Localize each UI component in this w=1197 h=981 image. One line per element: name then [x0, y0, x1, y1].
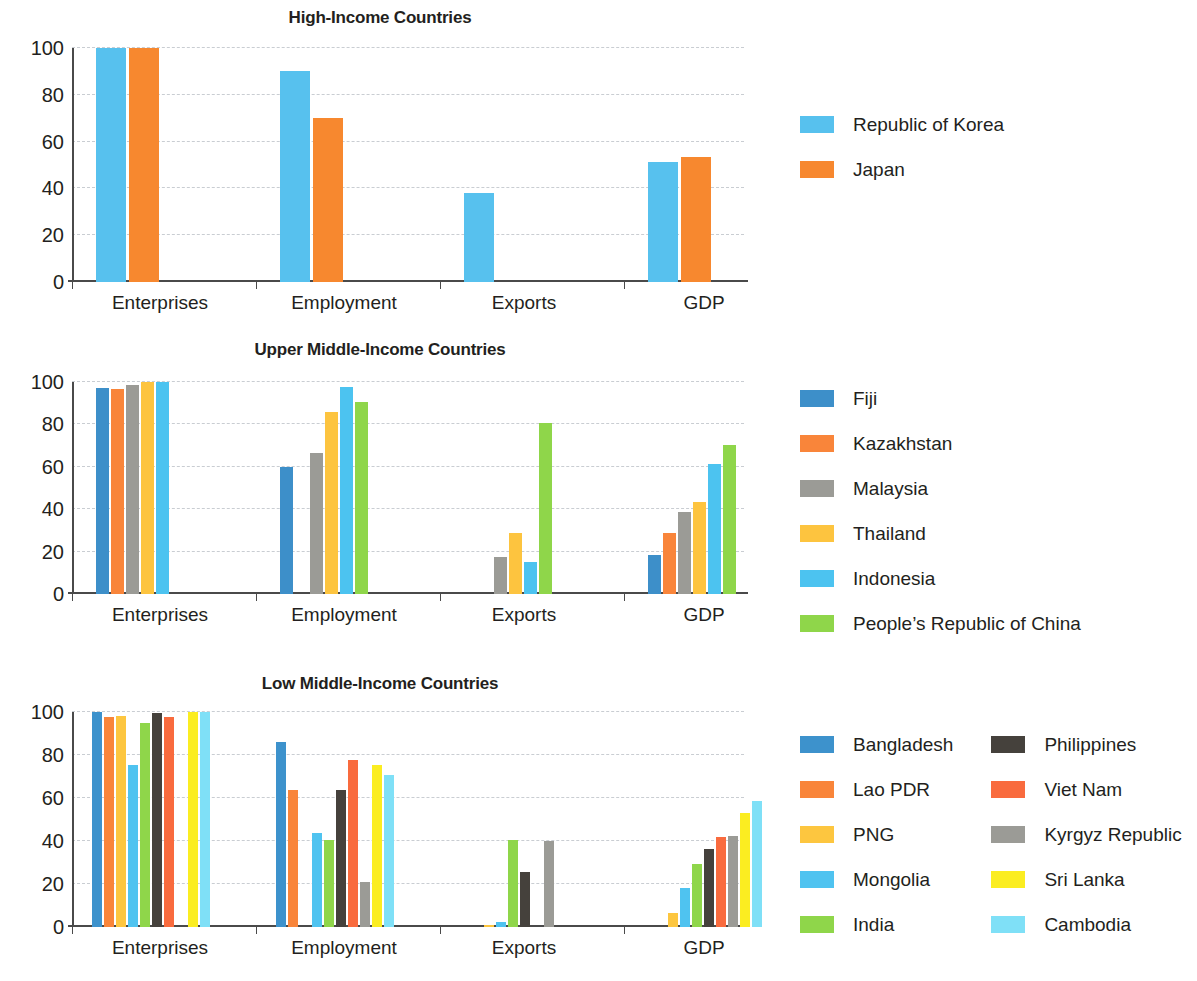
chart-panel-upper-middle-income: Upper Middle-Income Countries 0204060801…	[0, 330, 1197, 660]
legend-item[interactable]: Lao PDR	[800, 767, 953, 812]
legend-item[interactable]: Viet Nam	[991, 767, 1181, 812]
x-axis-tick	[72, 594, 73, 601]
bar-group-bars	[276, 712, 426, 927]
legend-item-label: Indonesia	[853, 568, 935, 590]
legend-swatch-icon	[800, 871, 834, 888]
y-axis-tick-label: 80	[42, 744, 64, 767]
bar	[280, 467, 293, 594]
plot-area	[72, 48, 744, 282]
y-axis-tick-label: 20	[42, 540, 64, 563]
y-axis-tick-label: 60	[42, 455, 64, 478]
bar-group-bars	[464, 382, 614, 594]
bar	[496, 922, 506, 927]
legend-item[interactable]: Philippines	[991, 722, 1181, 767]
legend-item[interactable]: Thailand	[800, 511, 1081, 556]
bar	[728, 836, 738, 927]
bar	[288, 790, 298, 927]
legend-item[interactable]: Kazakhstan	[800, 421, 1081, 466]
legend-swatch-icon	[800, 826, 834, 843]
bar	[324, 840, 334, 927]
legend-column-1: BangladeshLao PDRPNGMongoliaIndia	[800, 722, 953, 947]
bar	[509, 533, 522, 594]
legend-item-label: Malaysia	[853, 478, 928, 500]
legend-item[interactable]: PNG	[800, 812, 953, 857]
bar	[310, 453, 323, 594]
legend-item[interactable]: Kyrgyz Republic	[991, 812, 1181, 857]
bar	[678, 512, 691, 594]
bar-group-bars	[96, 48, 246, 282]
bar	[752, 801, 762, 927]
plot-area	[72, 382, 744, 594]
x-axis-tick	[624, 594, 625, 601]
bar	[372, 765, 382, 927]
bar	[708, 464, 721, 594]
bar	[164, 717, 174, 927]
legend-item-label: Philippines	[1044, 734, 1136, 756]
bar	[508, 840, 518, 927]
chart-title: Upper Middle-Income Countries	[0, 340, 760, 360]
legend-item[interactable]: Malaysia	[800, 466, 1081, 511]
legend-item[interactable]: Bangladesh	[800, 722, 953, 767]
bar-group	[464, 48, 614, 282]
bar-group	[644, 712, 794, 927]
x-axis-tick	[256, 282, 257, 289]
x-axis-tick	[624, 927, 625, 934]
legend-item-label: Japan	[853, 159, 905, 181]
bar	[355, 402, 368, 594]
bar	[692, 864, 702, 927]
legend-item[interactable]: Japan	[800, 147, 1004, 192]
bar	[348, 760, 358, 927]
legend-swatch-icon	[800, 525, 834, 542]
bar-group-bars	[96, 382, 246, 594]
y-axis-line	[72, 712, 74, 927]
legend-item[interactable]: Fiji	[800, 376, 1081, 421]
legend-item-label: Thailand	[853, 523, 926, 545]
legend-item[interactable]: Sri Lanka	[991, 857, 1181, 902]
x-axis-category-label: GDP	[683, 292, 724, 314]
bar	[188, 712, 198, 927]
legend-swatch-icon	[800, 781, 834, 798]
bar	[544, 841, 554, 927]
bar-group	[276, 712, 426, 927]
bar-group	[96, 48, 246, 282]
x-axis-tick	[440, 927, 441, 934]
legend-item[interactable]: Mongolia	[800, 857, 953, 902]
x-axis-category-label: GDP	[683, 604, 724, 626]
plot-area	[72, 712, 744, 927]
x-axis-category-label: Employment	[291, 604, 397, 626]
x-axis-category-label: Enterprises	[112, 292, 208, 314]
bar	[539, 423, 552, 594]
x-axis-category-label: GDP	[683, 937, 724, 959]
legend-item-label: People’s Republic of China	[853, 613, 1081, 635]
chart-legend: Republic of KoreaJapan	[800, 102, 1004, 192]
legend-item-label: PNG	[853, 824, 894, 846]
x-axis-category-label: Enterprises	[112, 937, 208, 959]
legend-swatch-icon	[991, 916, 1025, 933]
x-axis-tick	[440, 594, 441, 601]
bar-group	[648, 48, 798, 282]
y-axis-tick-label: 60	[42, 787, 64, 810]
bar	[325, 412, 338, 594]
x-axis-tick	[256, 594, 257, 601]
y-axis-tick-label: 100	[31, 37, 64, 60]
bar	[200, 712, 210, 927]
legend-swatch-icon	[800, 435, 834, 452]
bar-group	[464, 382, 614, 594]
x-axis-tick	[440, 282, 441, 289]
x-axis-category-label: Employment	[291, 937, 397, 959]
legend-item-label: Viet Nam	[1044, 779, 1122, 801]
bar-group-bars	[464, 48, 614, 282]
legend-item[interactable]: India	[800, 902, 953, 947]
bar-group-bars	[280, 48, 430, 282]
bar	[524, 562, 537, 594]
x-axis-category-label: Employment	[291, 292, 397, 314]
y-axis-tick-label: 0	[53, 271, 64, 294]
legend-item[interactable]: Republic of Korea	[800, 102, 1004, 147]
legend-item[interactable]: Indonesia	[800, 556, 1081, 601]
legend-item[interactable]: People’s Republic of China	[800, 601, 1081, 646]
legend-item[interactable]: Cambodia	[991, 902, 1181, 947]
y-axis-tick-label: 60	[42, 130, 64, 153]
legend-column-2: PhilippinesViet NamKyrgyz RepublicSri La…	[991, 722, 1181, 947]
bar-group-bars	[644, 712, 794, 927]
y-axis-tick-label: 40	[42, 177, 64, 200]
